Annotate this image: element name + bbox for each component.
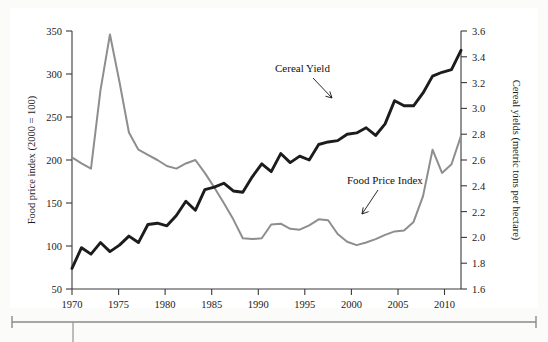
- right-axis-title: Cereal yields (metric tons per hectare): [510, 80, 522, 241]
- left-axis-title: Food price index (2000 = 100): [26, 95, 38, 224]
- left-axis-tick-labels: 350 300 250 200 150 100 50: [46, 26, 62, 295]
- food-price-index-label: Food Price Index: [347, 174, 423, 186]
- left-tick-label: 250: [46, 112, 62, 123]
- right-tick-label: 3.4: [472, 52, 486, 63]
- right-tick-label: 3.6: [472, 26, 485, 37]
- cereal-yield-label: Cereal Yield: [275, 62, 330, 74]
- right-tick-label: 2.2: [472, 207, 485, 218]
- right-tick-label: 3.2: [472, 78, 485, 89]
- series-line-food-price-index: [72, 34, 461, 245]
- right-tick-label: 3.0: [472, 103, 485, 114]
- series-line-cereal-yield: [72, 50, 461, 268]
- left-tick-label: 350: [46, 26, 62, 37]
- annotation-cereal-yield: Cereal Yield: [275, 62, 332, 98]
- left-axis-ticks: [66, 31, 72, 289]
- left-tick-label: 50: [52, 284, 63, 295]
- left-tick-label: 100: [46, 241, 62, 252]
- left-tick-label: 200: [46, 155, 62, 166]
- right-tick-label: 1.8: [472, 258, 485, 269]
- cereal-yield-arrow: [313, 78, 332, 98]
- dual-axis-line-chart: 350 300 250 200 150 100 50 Food price in…: [10, 8, 538, 308]
- right-axis-tick-labels: 3.6 3.4 3.2 3.0 2.8 2.6 2.4 2.2 2.0 1.8 …: [472, 26, 486, 295]
- left-tick-label: 150: [46, 198, 62, 209]
- plot-area: 350 300 250 200 150 100 50 Food price in…: [26, 26, 522, 308]
- annotation-food-price-index: Food Price Index: [347, 174, 423, 214]
- right-axis-ticks: [461, 31, 467, 289]
- right-tick-label: 2.4: [472, 181, 486, 192]
- right-tick-label: 2.6: [472, 155, 485, 166]
- right-tick-label: 2.8: [472, 129, 485, 140]
- x-axis-ticks: [72, 289, 445, 295]
- right-tick-label: 2.0: [472, 232, 485, 243]
- figure-page: 350 300 250 200 150 100 50 Food price in…: [0, 0, 548, 342]
- page-rule: [0, 300, 548, 342]
- right-tick-label: 1.6: [472, 284, 485, 295]
- chart-figure: 350 300 250 200 150 100 50 Food price in…: [10, 8, 538, 308]
- food-price-index-arrow: [362, 190, 378, 214]
- left-tick-label: 300: [46, 69, 62, 80]
